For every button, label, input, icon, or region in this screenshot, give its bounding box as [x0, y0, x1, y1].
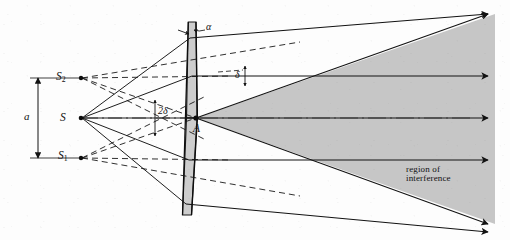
label-S1-subscript: 1	[64, 154, 68, 163]
label-prism-angle-alpha: α	[206, 22, 211, 33]
label-source-S: S	[60, 111, 66, 123]
label-S2-subscript: 2	[62, 75, 66, 84]
label-region-of-interference: region ofinterference	[406, 165, 451, 184]
incident-rays	[82, 38, 196, 204]
label-total-deviation-2delta: 2δ	[158, 106, 168, 117]
figure-canvas: S S1 S2 A a α δ 2δ region ofinterference	[0, 0, 510, 240]
point-S2	[79, 76, 83, 80]
point-S1	[79, 156, 83, 160]
point-A	[193, 115, 198, 120]
biprism-ray-diagram	[0, 0, 510, 240]
label-apex-A: A	[193, 122, 200, 134]
interference-region-shading	[196, 14, 495, 224]
region-line-2: interference	[406, 174, 451, 183]
label-separation-a: a	[24, 111, 30, 123]
point-S	[79, 116, 84, 121]
label-virtual-source-S1: S1	[58, 149, 68, 163]
label-deviation-delta: δ	[235, 70, 240, 81]
label-virtual-source-S2: S2	[56, 70, 66, 84]
